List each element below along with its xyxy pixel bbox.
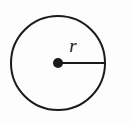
radius-label: r [69, 35, 77, 56]
diagram-background [0, 0, 132, 123]
circle-radius-diagram: r [0, 0, 132, 123]
circle-diagram-canvas: r [0, 0, 132, 123]
center-point-dot [53, 58, 63, 68]
